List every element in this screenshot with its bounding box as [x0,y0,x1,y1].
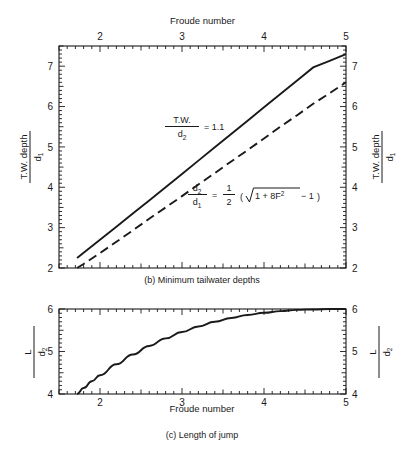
figure-container: 2345223344556677Froude numberT.W. depthd… [0,0,405,461]
panel-c: 2345445566Ld2Ld2 [22,304,394,408]
panel-c-left-axis-title-denominator: d2 [36,347,49,356]
panel-c-caption: (c) Length of jump [166,430,239,440]
panel-b-left-axis-title-numerator: T.W. depth [18,135,29,180]
panel-b-ytick-label-left: 7 [47,61,53,72]
panel-b-right-axis-title-numerator: T.W. depth [370,135,381,180]
panel-b-ytick-label-right: 3 [352,222,358,233]
annotation-2-paren-open: ( [240,192,243,202]
panel-c-right-axis-title-denominator: d2 [381,347,394,356]
panel-c-xtick-label: 4 [261,397,267,408]
annotation-2-half-denominator: 2 [226,197,231,207]
panel-b-curve-dashed [77,82,346,268]
panel-c-ytick-label-left: 6 [47,304,53,315]
panel-b-ytick-label-left: 5 [47,142,53,153]
panel-b-right-axis-title-denominator: d1 [384,152,397,161]
panel-b-ytick-label-left: 2 [47,263,53,274]
panel-c-left-axis-title: Ld2 [22,326,49,378]
annotation-2-denominator: d1 [193,197,202,209]
panel-b-left-axis-title-denominator: d1 [32,152,45,161]
annotation-2-tail: − 1 [301,191,314,201]
panel-b: 2345223344556677Froude numberT.W. depthd… [18,15,397,274]
panel-c-right-axis-title-numerator: L [367,349,378,354]
panel-b-ytick-label-right: 6 [352,101,358,112]
panel-b-ytick-label-left: 4 [47,182,53,193]
panel-b-left-axis-title: T.W. depthd1 [18,131,45,183]
annotation-2-equals: = [212,190,217,200]
annotation-2-half-numerator: 1 [226,183,231,193]
panel-b-annotation-tw-ratio: T.W.d2= 1.1 [165,115,224,141]
annotation-1-value: = 1.1 [204,122,224,132]
panel-c-right-axis-title: Ld2 [367,326,394,378]
panel-b-xtick-label: 2 [97,31,103,42]
panel-c-ytick-label-right: 5 [352,346,358,357]
annotation-2-numerator: d2 [193,183,202,195]
annotation-1-numerator: T.W. [173,115,191,125]
panel-b-xtick-label: 3 [179,31,185,42]
panel-b-xtick-label: 4 [261,31,267,42]
annotation-1-denominator: d2 [178,129,187,141]
panel-b-curve-solid [77,54,346,258]
panel-c-ytick-label-right: 6 [352,304,358,315]
panel-c-ytick-label-left: 4 [47,389,53,400]
panel-b-right-axis-title: T.W. depthd1 [370,131,397,183]
panel-c-ytick-label-left: 5 [47,346,53,357]
panel-c-xtick-label: 5 [343,397,349,408]
panel-b-xtick-label: 5 [343,31,349,42]
annotation-2-radicand: 1 + 8F2 [255,190,285,202]
panel-b-annotation-sequent-depth-eq: d2d1=12(1 + 8F2− 1) [188,183,320,209]
panel-c-curve-solid [77,309,346,394]
panel-b-ytick-label-right: 5 [352,142,358,153]
panel-b-ytick-label-right: 2 [352,263,358,274]
panel-b-ytick-label-right: 7 [352,61,358,72]
panel-b-ytick-label-left: 3 [47,222,53,233]
panel-c-ytick-label-right: 4 [352,389,358,400]
panel-b-ytick-label-left: 6 [47,101,53,112]
panel-c-frame [59,309,346,394]
panel-c-x-axis-title: Froude number [170,403,235,414]
panel-b-caption: (b) Minimum tailwater depths [144,275,260,285]
figure-svg: 2345223344556677Froude numberT.W. depthd… [0,0,405,461]
panel-b-x-axis-title: Froude number [170,15,235,26]
annotation-2-paren-close: ) [317,192,320,202]
panel-c-left-axis-title-numerator: L [22,349,33,354]
panel-b-ytick-label-right: 4 [352,182,358,193]
panel-c-xtick-label: 2 [97,397,103,408]
